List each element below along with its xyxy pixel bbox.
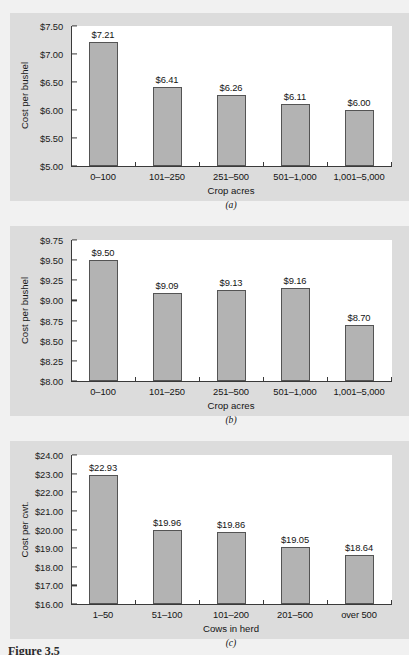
y-axis-title-b: Cost per bushel [19,240,30,381]
y-tick-mark-c [72,548,77,549]
x-tick-label: 1–50 [93,609,113,620]
y-axis-title-c: Cost per cwt. [19,455,30,604]
bar-value-label: $6.41 [156,74,179,85]
y-tick-mark-c [72,529,77,530]
y-tick-mark-b [72,320,77,321]
y-tick-mark-c [72,603,77,604]
plot-area-c: $16.00$17.00$18.00$19.00$20.00$21.00$22.… [10,441,409,639]
x-tick-mark [135,162,136,167]
y-tick-mark-b [72,280,77,281]
y-tick-label-b: $9.25 [10,275,63,286]
x-tick-label: 51–100 [152,609,183,620]
bar [217,95,246,166]
x-axis-end-tick [391,377,392,382]
y-tick-mark-a [72,25,77,26]
y-tick-label-c: $18.00 [10,561,63,572]
sub-caption-b: (b) [225,414,236,425]
x-tick-mark [327,600,328,605]
bar [89,260,118,381]
y-tick-label-c: $24.00 [10,450,63,461]
y-tick-mark-b [72,300,77,301]
y-tick-mark-c [72,454,77,455]
bar [281,104,310,166]
y-tick-label-b: $9.00 [10,295,63,306]
x-tick-mark [327,162,328,167]
x-axis-title-c: Cows in herd [203,623,259,634]
x-tick-label: 501–1,000 [273,386,316,397]
y-tick-mark-a [72,137,77,138]
y-tick-label-b: $9.75 [10,235,63,246]
figure-page: $5.00$5.50$6.00$6.50$7.00$7.50Cost per b… [0,0,409,655]
x-tick-mark [263,162,264,167]
x-tick-mark [199,377,200,382]
y-tick-mark-c [72,585,77,586]
bar [89,475,118,604]
y-tick-mark-a [72,53,77,54]
y-tick-label-b: $9.50 [10,255,63,266]
x-tick-label: 101–200 [213,609,249,620]
x-tick-mark [327,377,328,382]
bar [217,290,246,381]
y-tick-mark-b [72,360,77,361]
y-tick-label-b: $8.25 [10,355,63,366]
bar-value-label: $19.05 [281,534,309,545]
plot-area-b: $8.00$8.25$8.50$8.75$9.00$9.25$9.50$9.75… [10,226,409,416]
y-tick-label-b: $8.75 [10,315,63,326]
bar [281,288,310,381]
x-tick-label: 251–500 [213,171,249,182]
bar-value-label: $18.64 [345,542,373,553]
y-tick-label-c: $23.00 [10,468,63,479]
y-tick-label-b: $8.50 [10,335,63,346]
bar-value-label: $9.09 [156,280,179,291]
y-tick-mark-b [72,380,77,381]
sub-caption-c: (c) [226,637,237,648]
x-tick-mark [263,377,264,382]
y-tick-label-c: $17.00 [10,580,63,591]
bar [217,532,246,604]
y-tick-mark-b [72,239,77,240]
bar [89,42,118,166]
bar-value-label: $6.00 [348,97,371,108]
y-tick-mark-c [72,492,77,493]
chart-panel-a: $5.00$5.50$6.00$6.50$7.00$7.50Cost per b… [10,13,409,201]
x-tick-label: 201–500 [277,609,313,620]
figure-caption: Figure 3.5 [8,644,60,655]
bar-value-label: $19.96 [153,517,181,528]
x-tick-label: 101–250 [149,171,185,182]
bar [345,325,374,381]
y-tick-mark-c [72,473,77,474]
x-axis-end-tick [391,600,392,605]
bar-value-label: $6.11 [284,91,306,102]
bar-value-label: $9.16 [284,275,307,286]
y-tick-label-c: $20.00 [10,524,63,535]
x-tick-mark [135,600,136,605]
bar-value-label: $7.21 [92,29,115,40]
x-tick-label: 1,001–5,000 [333,171,384,182]
bar [281,547,310,604]
bar-value-label: $9.13 [220,277,243,288]
bar [345,555,374,604]
bar [345,110,374,166]
y-tick-label-b: $8.00 [10,376,63,387]
x-tick-mark [199,600,200,605]
chart-panel-b: $8.00$8.25$8.50$8.75$9.00$9.25$9.50$9.75… [10,226,409,416]
bar-value-label: $19.86 [217,519,245,530]
y-tick-label-c: $16.00 [10,599,63,610]
x-axis-title-a: Crop acres [208,185,255,196]
y-tick-label-c: $19.00 [10,543,63,554]
x-tick-label: 101–250 [149,386,185,397]
y-axis-title-a: Cost per bushel [19,26,30,166]
y-tick-mark-c [72,510,77,511]
bar [153,530,182,604]
bar-value-label: $22.93 [89,462,117,473]
bar-value-label: $8.70 [348,312,371,323]
x-axis-title-b: Crop acres [208,400,255,411]
chart-panel-c: $16.00$17.00$18.00$19.00$20.00$21.00$22.… [10,441,409,639]
bar [153,87,182,166]
bar-value-label: $9.50 [92,247,115,258]
x-tick-label: 501–1,000 [273,171,316,182]
x-axis-end-tick [391,162,392,167]
y-tick-mark-a [72,109,77,110]
y-tick-mark-c [72,566,77,567]
y-tick-mark-a [72,165,77,166]
